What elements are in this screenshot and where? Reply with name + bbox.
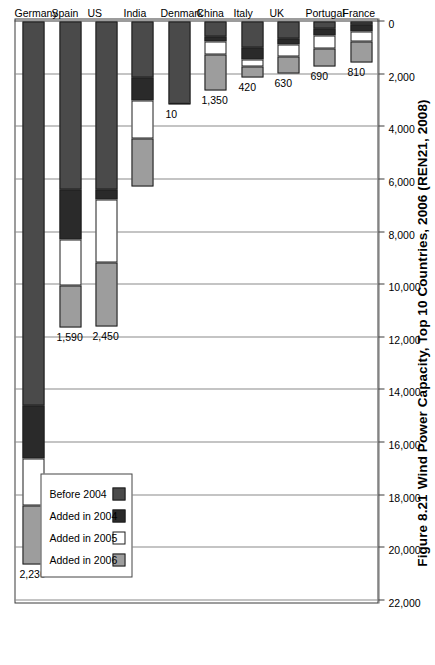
legend-label: Added in 2005 — [49, 531, 117, 543]
bar-segment[interactable] — [59, 285, 81, 327]
bar-segment[interactable] — [95, 21, 117, 189]
figure-page: 2,2301,5902,450101,350420630690810 Added… — [0, 0, 435, 665]
bar-segment[interactable] — [59, 21, 81, 189]
rotated-figure: 2,2301,5902,450101,350420630690810 Added… — [0, 0, 435, 665]
bar-segment[interactable] — [350, 31, 372, 41]
category-label: US — [87, 6, 102, 18]
bar-data-label: 810 — [347, 65, 365, 77]
bar-segment[interactable] — [277, 21, 299, 38]
value-axis-baseline — [378, 18, 379, 603]
axis-tick — [378, 336, 384, 337]
bar-data-label: 10 — [165, 107, 177, 119]
bar-segment[interactable] — [204, 41, 226, 54]
bar-segment[interactable] — [350, 24, 372, 31]
axis-tick — [378, 599, 384, 600]
bar-segment[interactable] — [131, 138, 153, 186]
legend-label: Added in 2006 — [49, 553, 117, 565]
bar-segment[interactable] — [313, 35, 335, 48]
bar-segment[interactable] — [204, 36, 226, 41]
bar-segment[interactable] — [168, 102, 190, 104]
axis-tick-label: 8,000 — [388, 228, 414, 240]
bar-segment[interactable] — [313, 28, 335, 35]
axis-tick — [378, 178, 384, 179]
bar-data-label: 1,590 — [56, 330, 82, 342]
bar-data-label: 420 — [238, 80, 256, 92]
category-label: India — [123, 6, 146, 18]
axis-tick — [378, 388, 384, 389]
bar-segment[interactable] — [204, 54, 226, 90]
axis-tick-label: 0 — [388, 17, 394, 29]
category-label: UK — [269, 6, 284, 18]
bar-segment[interactable] — [22, 405, 44, 458]
bar-segment[interactable] — [204, 21, 226, 36]
category-label: Portugal — [305, 6, 344, 18]
bar-row[interactable] — [277, 18, 299, 603]
bar-segment[interactable] — [350, 41, 372, 62]
axis-tick-label: 2,000 — [388, 70, 414, 82]
bar-row[interactable] — [168, 18, 190, 603]
bar-row[interactable] — [131, 18, 153, 603]
bar-row[interactable] — [204, 18, 226, 603]
plot-area: 2,2301,5902,450101,350420630690810 Added… — [14, 18, 378, 603]
figure-caption-text: Wind Power Capacity, Top 10 Countries, 2… — [414, 99, 429, 489]
axis-tick-label: 4,000 — [388, 122, 414, 134]
bar-row[interactable] — [350, 18, 372, 603]
bar-data-label: 630 — [274, 76, 292, 88]
category-label: China — [196, 6, 223, 18]
bar-segment[interactable] — [241, 59, 263, 66]
chart-legend: Added in 2006Added in 2005Added in 2004B… — [40, 473, 132, 577]
bar-segment[interactable] — [241, 66, 263, 77]
bar-segment[interactable] — [95, 189, 117, 199]
bar-segment[interactable] — [350, 21, 372, 24]
bar-segment[interactable] — [313, 48, 335, 66]
figure-caption: Figure 8.21Wind Power Capacity, Top 10 C… — [414, 0, 429, 665]
axis-tick — [378, 73, 384, 74]
bar-segment[interactable] — [131, 77, 153, 100]
bar-segment[interactable] — [313, 21, 335, 28]
axis-tick — [378, 231, 384, 232]
bar-segment[interactable] — [131, 100, 153, 138]
bar-data-label: 1,350 — [201, 93, 227, 105]
category-label: Italy — [233, 6, 252, 18]
bar-data-label: 2,450 — [92, 329, 118, 341]
bar-segment[interactable] — [131, 21, 153, 77]
bar-segment[interactable] — [95, 199, 117, 262]
bar-segment[interactable] — [241, 21, 263, 47]
figure-number: Figure 8.21 — [414, 494, 429, 566]
bar-segment[interactable] — [241, 47, 263, 59]
legend-label: Added in 2004 — [49, 509, 117, 521]
bar-segment[interactable] — [277, 56, 299, 73]
bar-segment[interactable] — [59, 239, 81, 285]
bar-segment[interactable] — [168, 21, 190, 103]
axis-tick — [378, 546, 384, 547]
bar-row[interactable] — [313, 18, 335, 603]
category-label: Spain — [51, 6, 78, 18]
bar-segment[interactable] — [59, 189, 81, 239]
legend-label: Before 2004 — [49, 487, 106, 499]
axis-tick — [378, 125, 384, 126]
bar-segment[interactable] — [277, 44, 299, 56]
axis-tick-label: 6,000 — [388, 175, 414, 187]
bar-segment[interactable] — [22, 21, 44, 405]
bar-data-label: 690 — [310, 69, 328, 81]
bar-segment[interactable] — [95, 262, 117, 326]
axis-tick — [378, 20, 384, 21]
axis-tick — [378, 441, 384, 442]
category-label: France — [342, 6, 375, 18]
axis-tick — [378, 494, 384, 495]
legend-swatch-before-2004 — [112, 487, 125, 500]
bar-segment[interactable] — [277, 38, 299, 45]
bar-row[interactable] — [241, 18, 263, 603]
axis-tick — [378, 283, 384, 284]
